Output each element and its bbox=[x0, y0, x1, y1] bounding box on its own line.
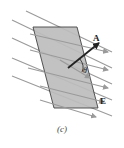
surface bbox=[33, 27, 98, 108]
area-vector-label: A bbox=[93, 33, 100, 43]
field-label: E bbox=[100, 96, 106, 106]
angle-label: θ bbox=[83, 66, 87, 75]
figure-caption: (c) bbox=[0, 124, 124, 134]
